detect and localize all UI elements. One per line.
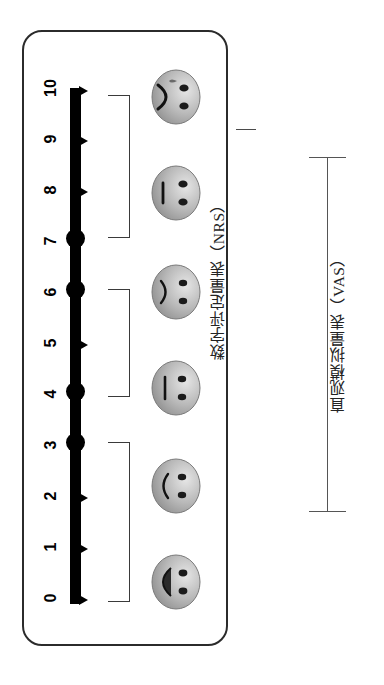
nrs-number-9: 9: [43, 126, 59, 152]
nrs-number-8: 8: [43, 177, 59, 203]
group-bracket-7-10: [108, 95, 130, 238]
nrs-tick-0: [79, 595, 88, 605]
nrs-number-4: 4: [43, 381, 59, 407]
face-icon-slight-smile: [148, 455, 204, 517]
nrs-node-3: [66, 433, 85, 452]
nrs-tick-8: [79, 187, 88, 197]
group-bracket-0-3: [108, 442, 130, 602]
nrs-number-10: 10: [43, 75, 59, 101]
nrs-number-0: 0: [43, 585, 59, 611]
nrs-node-6: [66, 280, 85, 299]
nrs-number-7: 7: [43, 228, 59, 254]
face-icon-big-smile: [148, 551, 204, 613]
nrs-node-4: [66, 382, 85, 401]
vas-axis-label: 直观模拟量表（VAS）: [330, 250, 384, 413]
nrs-tick-2: [79, 493, 88, 503]
nrs-number-6: 6: [43, 279, 59, 305]
nrs-endcap-tick: [236, 129, 256, 130]
face-icon-neutral: [148, 357, 204, 419]
face-icon-crying-frown: [148, 66, 204, 128]
nrs-number-2: 2: [43, 483, 59, 509]
nrs-number-1: 1: [43, 534, 59, 560]
nrs-number-5: 5: [43, 330, 59, 356]
nrs-tick-9: [79, 136, 88, 146]
vas-range-line: [327, 157, 328, 511]
nrs-number-3: 3: [43, 432, 59, 458]
nrs-tick-5: [79, 340, 88, 350]
nrs-tick-1: [79, 544, 88, 554]
face-icon-slight-frown: [148, 261, 204, 323]
face-icon-frown: [148, 162, 204, 224]
nrs-axis-label: 数字评定量表（NRS）: [210, 196, 350, 360]
nrs-tick-10: [79, 86, 88, 96]
nrs-node-7: [66, 229, 85, 248]
vas-bottom-cap: [309, 511, 346, 512]
group-bracket-4-6: [108, 289, 130, 397]
